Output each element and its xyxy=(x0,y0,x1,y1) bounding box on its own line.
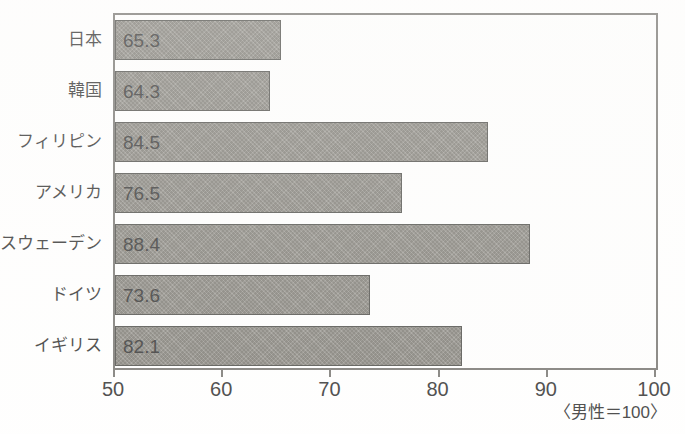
bar: 84.5 xyxy=(115,122,488,162)
bar-row: 82.1 xyxy=(115,321,656,372)
x-axis-tick-label: 100 xyxy=(637,378,670,400)
x-axis-tick-label: 70 xyxy=(318,378,340,400)
y-axis-category-labels: 日本 韓国 フィリピン アメリカ スウェーデン ドイツ イギリス xyxy=(0,13,110,370)
bar-value-label: 88.4 xyxy=(123,235,160,254)
y-axis-label: 日本 xyxy=(68,30,102,47)
y-axis-label: ドイツ xyxy=(51,285,102,302)
y-axis-label-row: ドイツ xyxy=(0,268,110,319)
bar: 73.6 xyxy=(115,275,370,315)
bar-value-label: 84.5 xyxy=(123,133,160,152)
y-axis-label: イギリス xyxy=(34,336,102,353)
x-axis-labels: 5060708090100 xyxy=(113,378,658,404)
bar-value-label: 64.3 xyxy=(123,82,160,101)
bar-row: 76.5 xyxy=(115,168,656,219)
x-axis-tick-mark xyxy=(654,370,656,377)
x-axis-ticks xyxy=(113,370,658,378)
x-axis-tick-label: 60 xyxy=(210,378,232,400)
x-axis-tick-mark xyxy=(329,370,331,377)
bar-value-label: 82.1 xyxy=(123,337,160,356)
y-axis-label: 韓国 xyxy=(68,81,102,98)
bar-chart-figure: 日本 韓国 フィリピン アメリカ スウェーデン ドイツ イギリス 65.3 64… xyxy=(0,0,685,434)
bar-value-label: 73.6 xyxy=(123,286,160,305)
x-axis-tick-mark xyxy=(438,370,440,377)
axis-note: 〈男性＝100〉 xyxy=(554,404,667,421)
bar: 65.3 xyxy=(115,20,281,60)
y-axis-label-row: スウェーデン xyxy=(0,217,110,268)
bar: 64.3 xyxy=(115,71,270,111)
y-axis-label-row: イギリス xyxy=(0,319,110,370)
bar-row: 88.4 xyxy=(115,219,656,270)
bar-row: 73.6 xyxy=(115,270,656,321)
bar: 76.5 xyxy=(115,173,402,213)
x-axis-tick-mark xyxy=(221,370,223,377)
x-axis-tick-label: 50 xyxy=(102,378,124,400)
y-axis-label-row: 日本 xyxy=(0,13,110,64)
bar-row: 65.3 xyxy=(115,15,656,66)
x-axis-tick-label: 80 xyxy=(426,378,448,400)
bar-row: 84.5 xyxy=(115,117,656,168)
plot-area: 65.3 64.3 84.5 76.5 88.4 73.6 82.1 xyxy=(113,13,658,370)
x-axis-tick-mark xyxy=(546,370,548,377)
x-axis-tick-label: 90 xyxy=(535,378,557,400)
bar: 88.4 xyxy=(115,224,530,264)
y-axis-label-row: アメリカ xyxy=(0,166,110,217)
y-axis-label: フィリピン xyxy=(17,132,102,149)
y-axis-label-row: 韓国 xyxy=(0,64,110,115)
x-axis-tick-mark xyxy=(113,370,115,377)
bar: 82.1 xyxy=(115,326,462,366)
bar-value-label: 65.3 xyxy=(123,31,160,50)
bar-value-label: 76.5 xyxy=(123,184,160,203)
y-axis-label: アメリカ xyxy=(35,183,102,200)
bar-row: 64.3 xyxy=(115,66,656,117)
y-axis-label-row: フィリピン xyxy=(0,115,110,166)
y-axis-label: スウェーデン xyxy=(0,234,102,251)
